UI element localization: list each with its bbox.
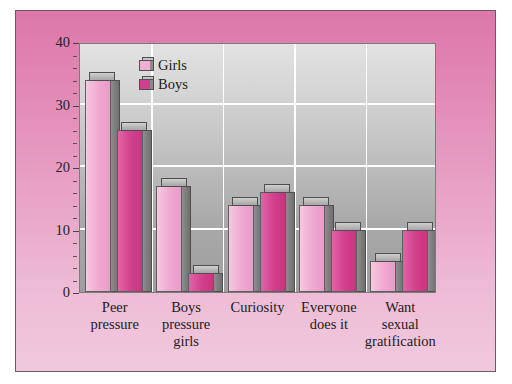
y-tick-label-30: 30	[40, 98, 70, 113]
bar-side-face	[286, 192, 295, 292]
bar-side-face	[428, 230, 436, 293]
bar-front-face	[260, 192, 286, 292]
x-category-label-line: Want	[357, 299, 444, 316]
bar-top-face	[89, 72, 115, 81]
y-tick-minor	[73, 156, 77, 157]
x-category-label-line: gratification	[357, 333, 444, 350]
y-tick-minor	[73, 281, 77, 282]
y-tick-minor	[73, 243, 77, 244]
legend-item-girls[interactable]: Girls	[139, 56, 188, 75]
bar-front-face	[370, 261, 396, 292]
bar-girls-4	[370, 261, 396, 292]
y-tick-minor	[73, 218, 77, 219]
bar-girls-1	[156, 186, 182, 292]
chart-figure: 010203040 GirlsBoys PeerpressureBoyspres…	[15, 10, 496, 372]
legend-swatch-side	[150, 60, 154, 71]
bar-top-face	[375, 253, 401, 262]
bar-front-face	[117, 130, 143, 293]
y-tick-minor	[73, 206, 77, 207]
legend-swatch-icon	[139, 60, 151, 71]
bar-girls-3	[299, 205, 325, 293]
bar-top-face	[161, 178, 187, 187]
bar-top-face	[335, 222, 361, 231]
bar-top-face	[303, 197, 329, 206]
y-tick-minor	[73, 68, 77, 69]
legend-swatch-side	[150, 79, 154, 90]
gridline-y-30	[80, 103, 435, 105]
bar-side-face	[214, 273, 223, 292]
y-tick-minor	[73, 93, 77, 94]
bar-girls-2	[228, 205, 254, 293]
x-category-label-line: sexual	[357, 316, 444, 333]
bar-boys-3	[331, 230, 357, 293]
legend-swatch-icon	[139, 79, 151, 90]
legend-label: Boys	[158, 76, 188, 93]
y-tick-minor	[73, 143, 77, 144]
bar-front-face	[188, 273, 214, 292]
legend-swatch-top	[142, 57, 154, 61]
y-tick-label-40: 40	[40, 35, 70, 50]
y-tick-minor	[73, 56, 77, 57]
bar-side-face	[143, 130, 152, 293]
y-tick-minor	[73, 81, 77, 82]
bar-girls-0	[85, 80, 111, 293]
bar-boys-4	[402, 230, 428, 293]
legend-label: Girls	[158, 57, 187, 74]
y-tick-label-0: 0	[40, 285, 70, 300]
y-tick-label-10: 10	[40, 223, 70, 238]
gridline-x-2	[223, 44, 225, 292]
plot-area	[79, 43, 436, 293]
bar-front-face	[331, 230, 357, 293]
bar-boys-1	[188, 273, 214, 292]
y-tick-mark-0	[73, 293, 79, 294]
bar-top-face	[232, 197, 258, 206]
y-tick-minor	[73, 268, 77, 269]
y-tick-minor	[73, 118, 77, 119]
x-category-label-line: girls	[142, 333, 229, 350]
bar-top-face	[121, 122, 147, 131]
bar-front-face	[156, 186, 182, 292]
bar-front-face	[402, 230, 428, 293]
y-axis-labels: 010203040	[38, 35, 70, 301]
bar-front-face	[85, 80, 111, 293]
bar-side-face	[357, 230, 366, 293]
bar-top-face	[193, 265, 219, 274]
bar-boys-2	[260, 192, 286, 292]
bar-top-face	[407, 222, 433, 231]
y-tick-label-20: 20	[40, 160, 70, 175]
bar-front-face	[299, 205, 325, 293]
y-tick-minor	[73, 193, 77, 194]
bar-front-face	[228, 205, 254, 293]
y-tick-minor	[73, 181, 77, 182]
bar-top-face	[264, 184, 290, 193]
legend-swatch-top	[142, 76, 154, 80]
chart-legend: GirlsBoys	[139, 56, 188, 94]
legend-item-boys[interactable]: Boys	[139, 75, 188, 94]
bar-boys-0	[117, 130, 143, 293]
x-category-label-line: pressure	[142, 316, 229, 333]
x-category-label-4: Wantsexualgratification	[357, 299, 444, 349]
y-tick-minor	[73, 256, 77, 257]
y-tick-minor	[73, 131, 77, 132]
